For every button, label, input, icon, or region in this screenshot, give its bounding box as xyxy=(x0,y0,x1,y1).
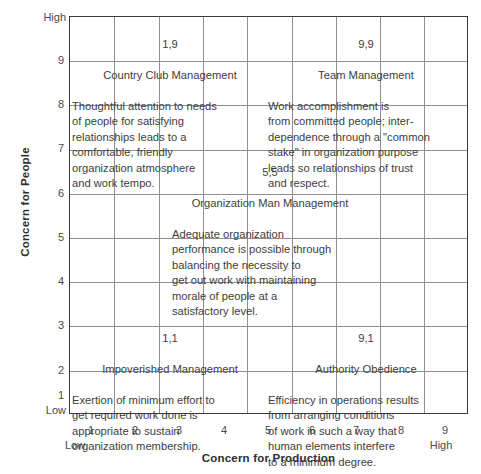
style-code: 5,5 xyxy=(172,165,368,180)
style-code: 1,9 xyxy=(72,37,268,52)
style-block-9-1: 9,1 Authority Obedience Efficiency in op… xyxy=(268,316,464,474)
y-axis-high-label: High xyxy=(26,12,66,23)
style-code: 1,1 xyxy=(72,331,268,346)
style-name: Team Management xyxy=(268,68,464,83)
managerial-grid-figure: 9 8 7 6 5 4 3 2 1 High Low 1 2 3 4 5 6 7… xyxy=(0,0,481,474)
style-block-5-5: 5,5 Organization Man Management Adequate… xyxy=(172,150,368,335)
style-name: Organization Man Management xyxy=(172,196,368,211)
y-axis-title: Concern for People xyxy=(19,122,31,282)
style-description: Adequate organization performance is pos… xyxy=(172,227,368,319)
style-name: Authority Obedience xyxy=(268,362,464,377)
y-tick-8: 8 xyxy=(24,99,64,110)
style-description: Exertion of minimum effort to get requir… xyxy=(72,393,268,455)
style-block-1-1: 1,1 Impoverished Management Exertion of … xyxy=(72,316,268,470)
y-tick-3: 3 xyxy=(24,320,64,331)
style-name: Impoverished Management xyxy=(72,362,268,377)
y-axis-low-label: Low xyxy=(26,405,66,416)
y-tick-2: 2 xyxy=(24,365,64,376)
style-code: 9,9 xyxy=(268,37,464,52)
style-description: Efficiency in operations results from ar… xyxy=(268,393,464,470)
style-name: Country Club Management xyxy=(72,68,268,83)
y-tick-9: 9 xyxy=(24,55,64,66)
y-tick-1: 1 xyxy=(24,390,64,401)
style-code: 9,1 xyxy=(268,331,464,346)
